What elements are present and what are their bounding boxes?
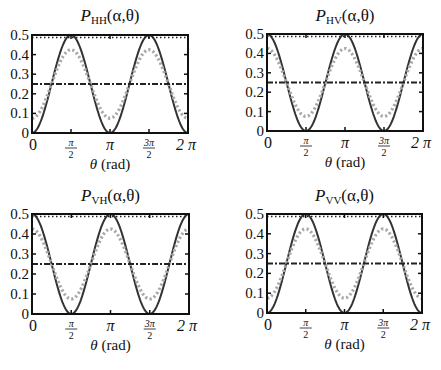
y-tick-label: 0.1 xyxy=(10,286,29,302)
plot-area xyxy=(32,35,188,133)
svg-text:2: 2 xyxy=(382,147,387,158)
svg-text:2 π: 2 π xyxy=(410,316,431,333)
svg-text:π: π xyxy=(106,317,115,334)
chart-hh: 00.10.20.30.40.50π2π3π22 π xyxy=(10,27,197,160)
svg-text:π: π xyxy=(341,134,350,151)
y-tick-label: 0.5 xyxy=(10,27,29,43)
svg-text:0: 0 xyxy=(29,136,37,153)
y-tick-label: 0 xyxy=(22,306,30,322)
y-tick-label: 0.5 xyxy=(245,206,264,222)
y-tick-label: 0.4 xyxy=(245,45,264,61)
svg-text:3π: 3π xyxy=(143,137,155,148)
svg-text:2: 2 xyxy=(304,147,309,158)
svg-text:3π: 3π xyxy=(144,318,156,329)
svg-text:0: 0 xyxy=(264,134,272,151)
x-tick-label: 0 xyxy=(264,134,272,151)
svg-text:π: π xyxy=(106,136,115,153)
x-tick-label: 2 π xyxy=(410,316,431,333)
y-tick-label: 0.4 xyxy=(245,226,264,242)
svg-text:π: π xyxy=(340,316,349,333)
y-tick-label: 0.2 xyxy=(10,266,29,282)
y-tick-label: 0.3 xyxy=(10,246,29,262)
y-tick-label: 0.4 xyxy=(10,47,29,63)
y-tick-label: 0.3 xyxy=(245,246,264,262)
y-tick-label: 0.2 xyxy=(245,84,264,100)
y-tick-label: 0.2 xyxy=(245,265,264,281)
chart-hv: 00.10.20.30.40.50π2π3π22 π xyxy=(245,26,432,158)
svg-text:2: 2 xyxy=(381,329,386,340)
y-tick-label: 0.1 xyxy=(245,104,264,120)
y-tick-label: 0.3 xyxy=(10,66,29,82)
y-tick-label: 0.5 xyxy=(10,206,29,222)
svg-text:2 π: 2 π xyxy=(177,317,198,334)
x-tick-label: 3π2 xyxy=(143,137,155,160)
x-tick-label: 2 π xyxy=(411,134,432,151)
plot-area xyxy=(267,34,423,131)
y-tick-label: 0 xyxy=(22,125,30,141)
svg-text:2: 2 xyxy=(147,149,152,160)
x-tick-label: π2 xyxy=(300,317,312,340)
y-tick-label: 0.1 xyxy=(245,285,264,301)
svg-text:2: 2 xyxy=(69,149,74,160)
x-tick-label: 3π2 xyxy=(378,135,390,158)
chart-vv: 00.10.20.30.40.50π2π3π22 π xyxy=(245,206,431,340)
svg-text:3π: 3π xyxy=(377,317,389,328)
svg-text:π: π xyxy=(69,318,75,329)
x-tick-label: π xyxy=(106,317,115,334)
x-tick-label: 0 xyxy=(29,136,37,153)
plot-area xyxy=(32,214,189,314)
y-tick-label: 0.2 xyxy=(10,86,29,102)
svg-text:0: 0 xyxy=(264,316,272,333)
x-tick-label: π2 xyxy=(300,135,312,158)
x-tick-label: 0 xyxy=(264,316,272,333)
x-tick-label: 0 xyxy=(29,317,37,334)
y-tick-label: 0.1 xyxy=(10,105,29,121)
x-tick-label: 2 π xyxy=(177,317,198,334)
x-tick-label: π xyxy=(341,134,350,151)
y-tick-label: 0 xyxy=(257,123,265,139)
plot-area xyxy=(267,214,422,313)
x-tick-label: 3π2 xyxy=(377,317,389,340)
svg-text:2: 2 xyxy=(147,330,152,341)
x-tick-label: 3π2 xyxy=(144,318,156,341)
plots-canvas: 00.10.20.30.40.50π2π3π22 π00.10.20.30.40… xyxy=(0,0,441,370)
svg-text:π: π xyxy=(303,135,309,146)
svg-text:2: 2 xyxy=(303,329,308,340)
x-tick-label: 2 π xyxy=(176,136,197,153)
svg-text:π: π xyxy=(68,137,74,148)
x-tick-label: π2 xyxy=(65,318,77,341)
y-tick-label: 0.5 xyxy=(245,26,264,42)
y-tick-label: 0 xyxy=(257,305,265,321)
x-tick-label: π xyxy=(340,316,349,333)
x-tick-label: π xyxy=(106,136,115,153)
svg-text:2 π: 2 π xyxy=(176,136,197,153)
y-tick-label: 0.3 xyxy=(245,65,264,81)
svg-text:π: π xyxy=(303,317,309,328)
svg-text:2 π: 2 π xyxy=(411,134,432,151)
svg-text:2: 2 xyxy=(69,330,74,341)
svg-text:3π: 3π xyxy=(378,135,390,146)
chart-vh: 00.10.20.30.40.50π2π3π22 π xyxy=(10,206,198,341)
x-tick-label: π2 xyxy=(65,137,77,160)
y-tick-label: 0.4 xyxy=(10,226,29,242)
svg-text:0: 0 xyxy=(29,317,37,334)
